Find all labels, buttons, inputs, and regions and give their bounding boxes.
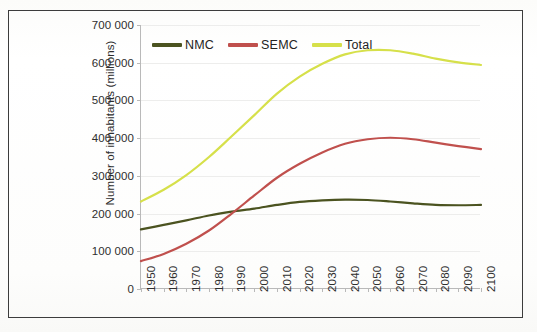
x-tick-label: 1980 (213, 266, 225, 292)
x-tick-label: 2030 (326, 266, 338, 292)
x-tick-label: 1950 (145, 266, 157, 292)
x-tick-label: 2090 (462, 266, 474, 292)
x-tick-label: 2020 (303, 266, 315, 292)
series-lines (141, 25, 481, 289)
plot-area (140, 25, 480, 289)
x-tick-label: 2080 (439, 266, 451, 292)
legend-item-nmc[interactable]: NMC (152, 38, 214, 52)
x-tick-label: 2040 (349, 266, 361, 292)
x-tick-label: 1960 (167, 266, 179, 292)
y-tick-label: 100 000 (92, 245, 134, 257)
y-tick-label: 200 000 (92, 208, 134, 220)
y-axis-tick-labels: 700 000600 000500 000400 000300 000200 0… (78, 25, 134, 289)
x-tick-label: 2050 (371, 266, 383, 292)
legend-swatch-total (312, 43, 342, 46)
legend-swatch-semc (228, 43, 258, 46)
chart-legend: NMCSEMCTotal (152, 38, 372, 52)
x-tick-label: 1970 (190, 266, 202, 292)
series-line-total (141, 50, 481, 202)
y-tick-label: 0 (128, 283, 135, 295)
x-tick-label: 2060 (394, 266, 406, 292)
series-line-nmc (141, 200, 481, 230)
legend-item-total[interactable]: Total (312, 38, 372, 52)
chart-figure: Number of inhabitants (millions) 700 000… (0, 0, 537, 332)
legend-label: NMC (185, 38, 214, 52)
y-tick-label: 600 000 (92, 57, 134, 69)
x-tick-mark (481, 288, 482, 292)
x-tick-label: 1990 (235, 266, 247, 292)
y-tick-label: 500 000 (92, 94, 134, 106)
legend-item-semc[interactable]: SEMC (228, 38, 298, 52)
series-line-semc (141, 138, 481, 261)
plot-wrapper: Number of inhabitants (millions) 700 000… (0, 0, 537, 332)
y-tick-label: 700 000 (92, 19, 134, 31)
x-tick-label: 2070 (417, 266, 429, 292)
legend-label: SEMC (261, 38, 298, 52)
legend-swatch-nmc (152, 43, 182, 46)
x-axis-tick-labels: 1950196019701980199020002010202020302040… (140, 292, 480, 332)
y-tick-label: 300 000 (92, 170, 134, 182)
x-tick-label: 2010 (281, 266, 293, 292)
y-tick-label: 400 000 (92, 132, 134, 144)
x-tick-label: 2000 (258, 266, 270, 292)
legend-label: Total (345, 38, 372, 52)
x-tick-label: 2100 (485, 266, 497, 292)
